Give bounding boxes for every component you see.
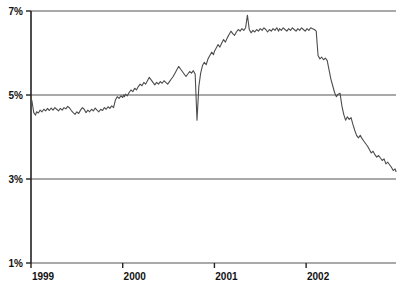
x-tick-label: 1999 [32, 271, 55, 282]
x-tick-label: 2000 [124, 271, 147, 282]
y-tick-label: 1% [9, 258, 24, 269]
y-tick-label: 5% [9, 90, 24, 101]
x-tick-label: 2002 [307, 271, 330, 282]
line-chart: 7%5%3%1% 1999200020012002 [0, 0, 401, 287]
y-tick-label: 7% [9, 6, 24, 17]
x-tick-label: 2001 [215, 271, 238, 282]
chart-background [0, 0, 401, 287]
y-tick-label: 3% [9, 174, 24, 185]
chart-container: 7%5%3%1% 1999200020012002 [0, 0, 401, 287]
